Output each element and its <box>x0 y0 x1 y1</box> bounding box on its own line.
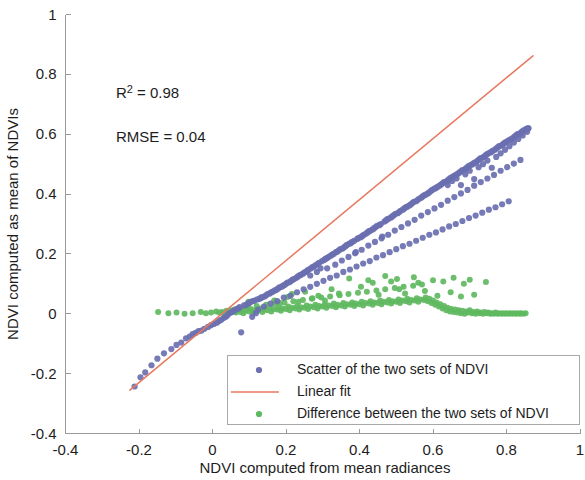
data-point <box>392 227 398 233</box>
data-point <box>346 275 352 281</box>
data-point <box>422 288 428 294</box>
data-point <box>406 241 412 247</box>
data-point <box>301 286 307 292</box>
data-point <box>355 290 361 296</box>
data-point <box>315 293 321 299</box>
y-tick-label: -0.2 <box>31 365 57 382</box>
x-tick-label: 1 <box>576 441 584 458</box>
y-tick-label: -0.4 <box>31 425 57 442</box>
data-point <box>461 281 467 287</box>
data-point <box>400 243 406 249</box>
data-point <box>473 213 479 219</box>
data-point <box>402 290 408 296</box>
data-point <box>154 356 160 362</box>
data-point <box>376 292 382 298</box>
data-point <box>208 310 214 316</box>
x-tick-label: 0.8 <box>496 441 517 458</box>
data-point <box>484 157 490 163</box>
x-tick-label: 0.2 <box>276 441 297 458</box>
data-point <box>358 284 364 290</box>
r-symbol: R <box>116 84 127 101</box>
data-point <box>372 239 378 245</box>
data-point <box>499 201 505 207</box>
data-point <box>370 280 376 286</box>
data-point <box>327 275 333 281</box>
data-point <box>439 226 445 232</box>
data-point <box>453 175 459 181</box>
data-point <box>492 204 498 210</box>
legend-marker-dot <box>256 367 262 373</box>
data-point <box>484 175 490 181</box>
data-point <box>446 223 452 229</box>
legend-marker-dot <box>256 411 262 417</box>
r-squared-label: R2 = 0.98 <box>116 83 179 101</box>
data-point <box>249 314 255 320</box>
data-point <box>173 310 179 316</box>
legend-label: Scatter of the two sets of NDVI <box>297 361 488 377</box>
data-point <box>287 293 293 299</box>
x-tick-label: 0 <box>208 441 216 458</box>
data-point <box>426 232 432 238</box>
legend-label: Linear fit <box>297 383 351 399</box>
data-point <box>161 350 167 356</box>
data-point <box>491 172 497 178</box>
data-point <box>393 246 399 252</box>
data-point <box>327 293 333 299</box>
data-point <box>329 286 335 292</box>
data-point <box>190 310 196 316</box>
data-point <box>459 218 465 224</box>
data-point <box>396 286 402 292</box>
data-point <box>478 179 484 185</box>
data-point <box>466 215 472 221</box>
y-tick-label: 0 <box>48 305 56 322</box>
data-point <box>360 260 366 266</box>
data-point <box>307 284 313 290</box>
data-point <box>418 213 424 219</box>
data-point <box>367 258 373 264</box>
data-point <box>453 221 459 227</box>
data-point <box>411 274 417 280</box>
r-squared-value: = 0.98 <box>133 84 179 101</box>
data-point <box>182 311 188 317</box>
data-point <box>451 194 457 200</box>
data-point <box>467 277 473 283</box>
data-point <box>324 265 330 271</box>
data-point <box>486 207 492 213</box>
data-point <box>440 278 446 284</box>
data-point <box>413 238 419 244</box>
data-point <box>451 275 457 281</box>
data-point <box>382 273 388 279</box>
data-point <box>425 209 431 215</box>
chart-legend[interactable]: Scatter of the two sets of NDVILinear fi… <box>228 356 580 425</box>
data-point <box>165 310 171 316</box>
data-point <box>261 304 267 310</box>
data-point <box>332 262 338 268</box>
data-point <box>281 295 287 301</box>
data-point <box>267 301 273 307</box>
data-point <box>294 289 300 295</box>
data-point <box>517 157 523 163</box>
data-point <box>378 235 384 241</box>
data-point <box>255 307 261 313</box>
data-point <box>511 160 517 166</box>
data-point <box>314 269 320 275</box>
data-point <box>398 224 404 230</box>
data-point <box>458 182 464 188</box>
data-point <box>464 187 470 193</box>
data-point <box>339 257 345 263</box>
data-point <box>458 293 464 299</box>
data-point <box>148 362 154 368</box>
rmse-label: RMSE = 0.04 <box>116 128 206 145</box>
y-tick-label: 0.4 <box>36 185 57 202</box>
data-point <box>504 164 510 170</box>
data-point <box>415 280 421 286</box>
data-point <box>347 266 353 272</box>
data-point <box>322 298 328 304</box>
data-point <box>352 250 358 256</box>
y-tick-label: 0.8 <box>36 65 57 82</box>
x-axis-title: NDVI computed from mean radiances <box>200 459 451 476</box>
data-point <box>353 263 359 269</box>
data-point <box>498 168 504 174</box>
data-point <box>458 190 464 196</box>
data-point <box>320 278 326 284</box>
